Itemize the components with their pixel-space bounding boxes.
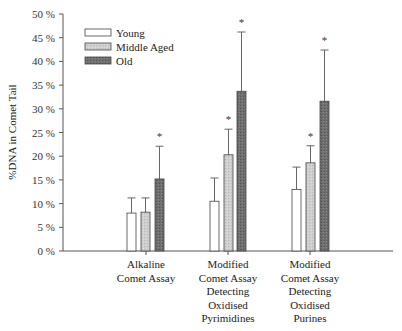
significance-asterisk: * [157, 130, 163, 142]
bar-old: * [155, 130, 164, 251]
svg-text:Detecting: Detecting [289, 285, 332, 297]
svg-text:Detecting: Detecting [207, 285, 250, 297]
x-axis: AlkalineComet AssayModifiedComet AssayDe… [63, 251, 393, 324]
y-tick-label: 15 % [32, 174, 55, 186]
y-tick-label: 5 % [38, 221, 55, 233]
svg-text:Alkaline: Alkaline [127, 258, 165, 270]
bar-old: * [237, 16, 246, 251]
legend-label: Young [116, 27, 145, 39]
svg-text:Comet Assay: Comet Assay [199, 272, 258, 284]
svg-text:Comet Assay: Comet Assay [117, 272, 176, 284]
y-tick-label: 35 % [32, 79, 55, 91]
legend-item-middle-aged: Middle Aged [85, 41, 174, 53]
y-axis: 0 %5 %10 %15 %20 %25 %30 %35 %40 %45 %50… [32, 8, 63, 257]
svg-text:Comet Assay: Comet Assay [281, 272, 340, 284]
y-tick-label: 50 % [32, 8, 55, 20]
significance-asterisk: * [308, 130, 314, 142]
y-axis-label: %DNA in Comet Tail [6, 84, 18, 179]
bar-middle-aged: * [306, 130, 315, 251]
category-label: ModifiedComet AssayDetectingOxidisedPuri… [281, 258, 340, 324]
legend-item-old: Old [85, 55, 133, 67]
y-tick-label: 0 % [38, 245, 55, 257]
significance-asterisk: * [239, 16, 245, 28]
svg-text:Modified: Modified [290, 258, 331, 270]
legend-swatch [85, 29, 111, 36]
y-tick-label: 20 % [32, 150, 55, 162]
y-tick-label: 25 % [32, 127, 55, 139]
legend-swatch [85, 57, 111, 64]
svg-text:Oxidised: Oxidised [208, 299, 248, 311]
legend-item-young: Young [85, 27, 145, 39]
legend: YoungMiddle AgedOld [85, 27, 174, 67]
significance-asterisk: * [322, 34, 328, 46]
bar-middle-aged [141, 198, 150, 251]
svg-text:Modified: Modified [208, 258, 249, 270]
category-label: ModifiedComet AssayDetectingOxidisedPyri… [199, 258, 258, 324]
legend-label: Middle Aged [116, 41, 174, 53]
bar-young [210, 178, 219, 251]
y-tick-label: 10 % [32, 198, 55, 210]
bar-chart: 0 %5 %10 %15 %20 %25 %30 %35 %40 %45 %50… [0, 0, 402, 331]
bar-young [292, 167, 301, 251]
y-tick-label: 40 % [32, 55, 55, 67]
bar-young [127, 198, 136, 251]
bar-old: * [320, 34, 329, 251]
category-label: AlkalineComet Assay [117, 258, 176, 284]
legend-label: Old [116, 55, 133, 67]
y-tick-label: 30 % [32, 103, 55, 115]
svg-text:Oxidised: Oxidised [290, 299, 330, 311]
svg-text:Purines: Purines [294, 312, 327, 324]
significance-asterisk: * [226, 113, 232, 125]
legend-swatch [85, 43, 111, 50]
y-tick-label: 45 % [32, 32, 55, 44]
svg-text:Pyrimidines: Pyrimidines [201, 312, 254, 324]
bar-middle-aged: * [224, 113, 233, 251]
